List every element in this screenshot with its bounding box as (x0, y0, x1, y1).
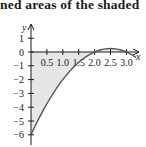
function-plot: 0.51.01.52.02.53.0 10−1−2−3−4−5−6 x y (0, 0, 146, 147)
y-tick-label: 0 (19, 47, 24, 58)
y-tick-label: −2 (13, 74, 24, 85)
y-tick-label: −1 (13, 60, 24, 71)
x-axis-label: x (135, 51, 141, 62)
y-tick-label: 1 (19, 33, 24, 44)
x-tick-label: 1.0 (57, 57, 70, 68)
x-tick-label: 2.5 (104, 57, 117, 68)
y-axis-label: y (21, 22, 27, 33)
x-tick-label: 0.5 (41, 57, 54, 68)
y-tick-label: −4 (13, 102, 24, 113)
x-tick-label: 3.0 (120, 57, 133, 68)
y-tick-label: −5 (13, 116, 24, 127)
y-tick-label: −3 (13, 88, 24, 99)
x-tick-label: 2.0 (88, 57, 101, 68)
y-tick-label: −6 (13, 129, 24, 140)
